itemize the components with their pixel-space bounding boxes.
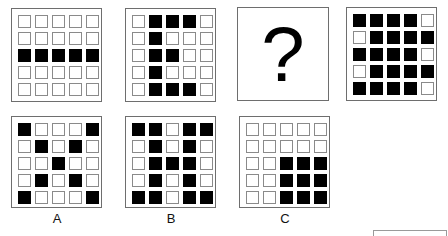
empty-cell (421, 48, 434, 61)
filled-cell (69, 174, 82, 187)
option-c[interactable] (239, 116, 330, 208)
empty-cell (200, 140, 213, 153)
empty-cell (246, 123, 259, 136)
empty-cell (166, 123, 179, 136)
filled-cell (297, 174, 310, 187)
empty-cell (69, 15, 82, 28)
empty-cell (353, 31, 366, 44)
filled-cell (421, 31, 434, 44)
filled-cell (166, 83, 179, 96)
empty-cell (263, 174, 276, 187)
filled-cell (149, 191, 162, 204)
filled-cell (166, 157, 179, 170)
question-panel-unknown: ? (237, 7, 329, 101)
filled-cell (404, 14, 417, 27)
cell-grid (132, 15, 213, 96)
filled-cell (132, 123, 145, 136)
filled-cell (86, 49, 99, 62)
filled-cell (200, 191, 213, 204)
cell-grid (246, 123, 327, 204)
empty-cell (263, 123, 276, 136)
empty-cell (200, 15, 213, 28)
filled-cell (421, 65, 434, 78)
option-b-label: B (161, 211, 181, 226)
empty-cell (35, 83, 48, 96)
empty-cell (132, 66, 145, 79)
filled-cell (297, 157, 310, 170)
filled-cell (69, 140, 82, 153)
empty-cell (166, 66, 179, 79)
empty-cell (166, 191, 179, 204)
filled-cell (149, 174, 162, 187)
filled-cell (387, 14, 400, 27)
empty-cell (297, 123, 310, 136)
empty-cell (35, 32, 48, 45)
empty-cell (297, 140, 310, 153)
option-c-label: C (275, 211, 295, 226)
empty-cell (52, 66, 65, 79)
filled-cell (387, 31, 400, 44)
empty-cell (200, 83, 213, 96)
empty-cell (314, 140, 327, 153)
empty-cell (132, 32, 145, 45)
filled-cell (387, 82, 400, 95)
empty-cell (18, 32, 31, 45)
empty-cell (263, 140, 276, 153)
filled-cell (353, 48, 366, 61)
filled-cell (297, 191, 310, 204)
filled-cell (183, 123, 196, 136)
empty-cell (246, 157, 259, 170)
filled-cell (149, 140, 162, 153)
empty-cell (263, 191, 276, 204)
filled-cell (200, 123, 213, 136)
question-mark-icon: ? (238, 8, 328, 100)
filled-cell (280, 174, 293, 187)
filled-cell (404, 65, 417, 78)
empty-cell (132, 174, 145, 187)
filled-cell (86, 123, 99, 136)
option-a-label: A (47, 211, 67, 226)
cell-grid (18, 15, 99, 96)
filled-cell (314, 174, 327, 187)
empty-cell (86, 66, 99, 79)
filled-cell (52, 49, 65, 62)
empty-cell (421, 82, 434, 95)
filled-cell (149, 49, 162, 62)
filled-cell (183, 15, 196, 28)
option-b[interactable] (125, 116, 216, 208)
filled-cell (314, 157, 327, 170)
empty-cell (166, 32, 179, 45)
empty-cell (86, 140, 99, 153)
empty-cell (200, 157, 213, 170)
filled-cell (370, 48, 383, 61)
empty-cell (69, 123, 82, 136)
filled-cell (149, 15, 162, 28)
question-panel-2 (125, 8, 216, 102)
empty-cell (246, 140, 259, 153)
filled-cell (280, 191, 293, 204)
filled-cell (166, 15, 179, 28)
empty-cell (200, 66, 213, 79)
answer-input-box[interactable] (373, 230, 447, 236)
empty-cell (421, 14, 434, 27)
empty-cell (280, 140, 293, 153)
option-a[interactable] (11, 116, 102, 208)
filled-cell (404, 82, 417, 95)
empty-cell (246, 174, 259, 187)
empty-cell (183, 49, 196, 62)
filled-cell (404, 31, 417, 44)
filled-cell (183, 191, 196, 204)
empty-cell (35, 191, 48, 204)
filled-cell (353, 14, 366, 27)
empty-cell (280, 123, 293, 136)
empty-cell (86, 83, 99, 96)
empty-cell (52, 174, 65, 187)
empty-cell (200, 32, 213, 45)
filled-cell (69, 49, 82, 62)
filled-cell (370, 65, 383, 78)
filled-cell (404, 48, 417, 61)
empty-cell (86, 157, 99, 170)
filled-cell (370, 14, 383, 27)
empty-cell (69, 66, 82, 79)
question-panel-1 (11, 8, 102, 102)
